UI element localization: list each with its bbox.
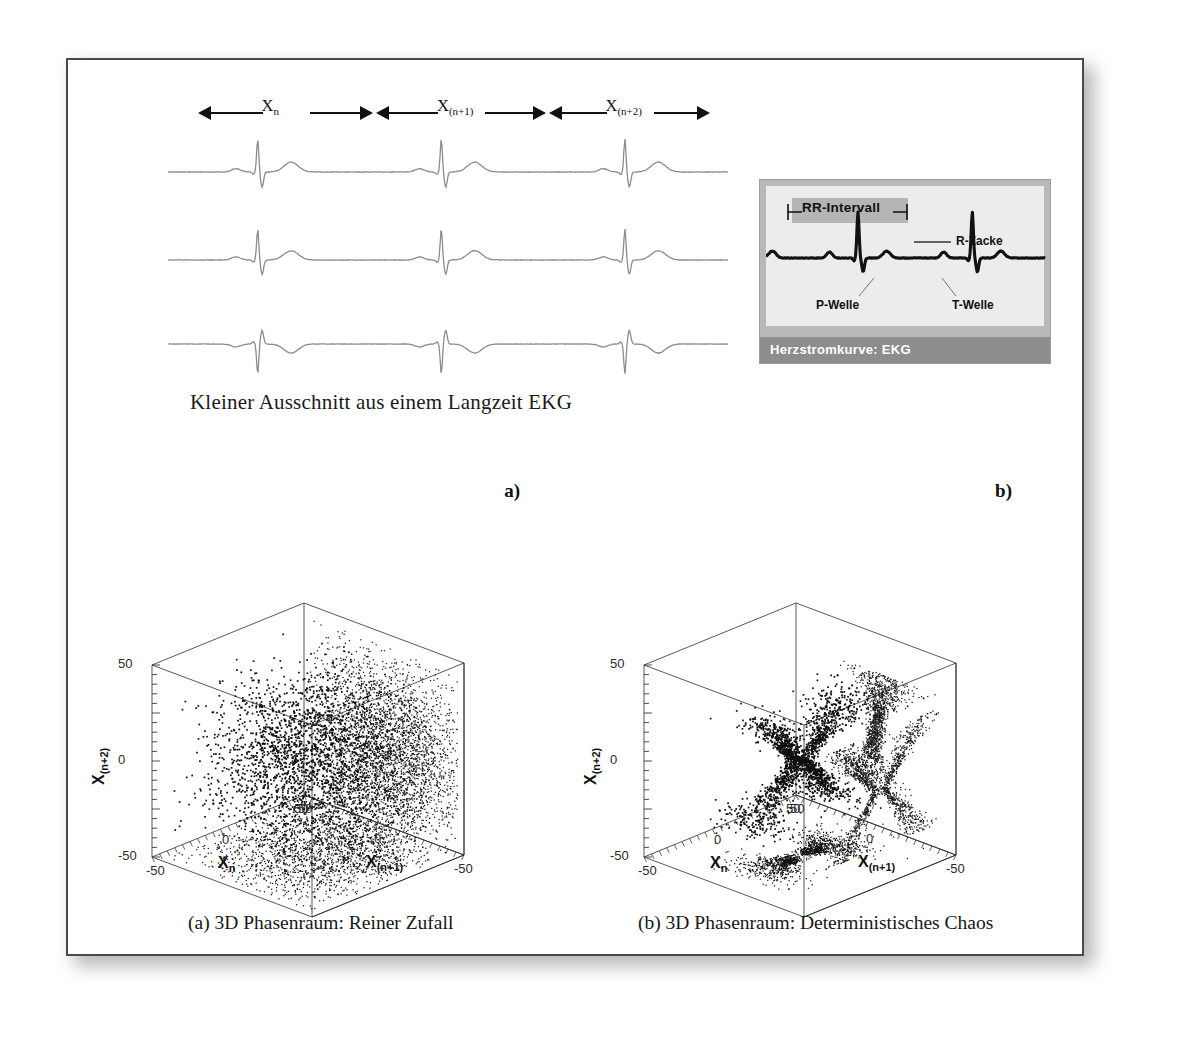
data-point <box>278 807 280 809</box>
projection-point-left-wall <box>900 787 901 788</box>
data-point <box>244 757 246 759</box>
projection-point-right-wall <box>398 754 399 755</box>
data-point <box>244 709 246 711</box>
projection-point-left-wall <box>867 712 868 713</box>
data-point <box>869 714 871 716</box>
data-point <box>271 840 273 842</box>
data-point <box>409 780 411 782</box>
data-point <box>283 676 285 678</box>
data-point <box>785 791 787 793</box>
data-point <box>349 697 351 699</box>
data-point <box>810 742 812 744</box>
projection-point-floor <box>839 843 840 844</box>
projection-point-left-wall <box>361 765 362 766</box>
projection-point-right-wall <box>406 831 407 832</box>
data-point <box>209 794 211 796</box>
projection-point-right-wall <box>905 820 906 821</box>
data-point <box>348 832 350 834</box>
data-point <box>764 790 766 792</box>
projection-point-left-wall <box>339 638 340 639</box>
data-point <box>803 774 805 776</box>
data-point <box>330 811 332 813</box>
projection-point-right-wall <box>865 774 866 775</box>
projection-point-floor <box>832 831 833 832</box>
projection-point-right-wall <box>859 826 860 827</box>
projection-point-right-wall <box>356 732 357 733</box>
data-point <box>847 696 849 698</box>
data-point <box>322 786 324 788</box>
projection-point-floor <box>783 865 784 866</box>
projection-point-left-wall <box>345 684 346 685</box>
data-point <box>338 788 340 790</box>
projection-point-right-wall <box>414 748 415 749</box>
projection-point-floor <box>242 839 243 840</box>
projection-point-floor <box>358 855 359 856</box>
projection-point-right-wall <box>436 700 437 701</box>
projection-point-floor <box>297 884 298 885</box>
projection-point-left-wall <box>882 675 883 676</box>
data-point <box>298 764 300 766</box>
projection-point-left-wall <box>381 741 382 742</box>
projection-point-left-wall <box>865 744 866 745</box>
projection-point-left-wall <box>866 765 867 766</box>
projection-point-floor <box>855 851 856 852</box>
projection-point-floor <box>292 876 293 877</box>
projection-point-floor <box>347 867 348 868</box>
projection-point-left-wall <box>337 701 338 702</box>
projection-point-right-wall <box>847 853 848 854</box>
projection-point-left-wall <box>897 705 898 706</box>
projection-point-left-wall <box>327 663 328 664</box>
projection-point-right-wall <box>422 702 423 703</box>
projection-point-floor <box>257 849 258 850</box>
projection-point-right-wall <box>350 792 351 793</box>
projection-point-right-wall <box>407 830 408 831</box>
projection-point-right-wall <box>885 784 886 785</box>
data-point <box>788 829 790 831</box>
projection-point-floor <box>820 844 821 845</box>
projection-point-left-wall <box>377 664 378 665</box>
projection-point-right-wall <box>920 827 921 828</box>
projection-point-left-wall <box>332 678 333 679</box>
projection-point-right-wall <box>896 798 897 799</box>
data-point <box>816 673 818 675</box>
data-point <box>294 792 296 794</box>
data-point <box>791 775 793 777</box>
projection-point-left-wall <box>878 702 879 703</box>
projection-point-floor <box>390 846 391 847</box>
projection-point-floor <box>827 877 828 878</box>
projection-point-left-wall <box>881 712 882 713</box>
projection-point-right-wall <box>851 843 852 844</box>
data-point <box>288 788 290 790</box>
projection-point-floor <box>382 831 383 832</box>
projection-point-right-wall <box>898 747 899 748</box>
data-point <box>783 780 785 782</box>
projection-point-left-wall <box>361 667 362 668</box>
projection-point-left-wall <box>415 750 416 751</box>
data-point <box>796 777 798 779</box>
projection-point-right-wall <box>364 786 365 787</box>
projection-point-floor <box>268 862 269 863</box>
data-point <box>298 746 300 748</box>
projection-point-left-wall <box>336 709 337 710</box>
projection-point-right-wall <box>379 799 380 800</box>
data-point <box>416 758 418 760</box>
data-point <box>907 705 909 707</box>
data-point <box>761 796 763 798</box>
projection-point-left-wall <box>449 780 450 781</box>
projection-point-left-wall <box>409 700 410 701</box>
data-point <box>278 759 280 761</box>
data-point <box>307 830 309 832</box>
x-tick-label: -50 <box>638 863 657 878</box>
projection-point-floor <box>342 818 343 819</box>
projection-point-left-wall <box>333 764 334 765</box>
projection-point-floor <box>284 873 285 874</box>
data-point <box>348 712 350 714</box>
projection-point-left-wall <box>866 747 867 748</box>
projection-point-right-wall <box>893 765 894 766</box>
projection-point-floor <box>292 862 293 863</box>
projection-point-right-wall <box>381 848 382 849</box>
projection-point-right-wall <box>893 800 894 801</box>
projection-point-floor <box>244 854 245 855</box>
data-point <box>335 827 337 829</box>
data-point <box>403 732 405 734</box>
